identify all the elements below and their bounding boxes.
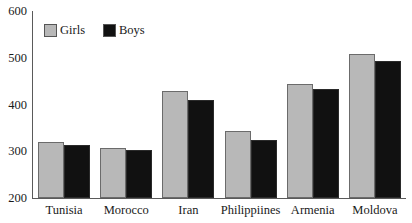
bar-girls-philippiines[interactable]	[225, 131, 251, 198]
x-tick-label: Moldova	[344, 202, 406, 218]
bar-group	[38, 11, 90, 198]
y-tick-label: 500	[8, 52, 27, 64]
bar-girls-iran[interactable]	[162, 91, 188, 198]
x-tick-label: Iran	[157, 202, 219, 218]
bar-group	[162, 11, 214, 198]
x-axis-line	[32, 198, 406, 199]
bar-chart: 600500400300200 GirlsBoys TunisiaMorocco…	[0, 0, 412, 223]
y-tick-label: 300	[8, 145, 27, 157]
bar-group	[225, 11, 277, 198]
bar-boys-morocco[interactable]	[126, 150, 152, 198]
bar-girls-tunisia[interactable]	[38, 142, 64, 198]
bar-boys-iran[interactable]	[188, 100, 214, 198]
y-tick-label: 600	[8, 5, 27, 17]
x-tick-label: Morocco	[95, 202, 157, 218]
plot-area	[33, 11, 406, 198]
bar-boys-moldova[interactable]	[375, 61, 401, 198]
bar-group	[100, 11, 152, 198]
bar-group	[287, 11, 339, 198]
bar-boys-tunisia[interactable]	[64, 145, 90, 198]
x-tick-label: Philippiines	[220, 202, 282, 218]
x-tick-label: Tunisia	[33, 202, 95, 218]
bar-girls-moldova[interactable]	[349, 54, 375, 198]
bar-boys-armenia[interactable]	[313, 89, 339, 198]
bar-boys-philippiines[interactable]	[251, 140, 277, 198]
x-tick-label: Armenia	[282, 202, 344, 218]
y-tick-label: 400	[8, 99, 27, 111]
chart-title	[22, 0, 402, 3]
bar-girls-armenia[interactable]	[287, 84, 313, 198]
y-tick-label: 200	[8, 192, 27, 204]
bar-girls-morocco[interactable]	[100, 148, 126, 198]
x-axis: TunisiaMoroccoIranPhilippiinesArmeniaMol…	[33, 202, 406, 222]
y-axis: 600500400300200	[0, 0, 30, 223]
bar-group	[349, 11, 401, 198]
